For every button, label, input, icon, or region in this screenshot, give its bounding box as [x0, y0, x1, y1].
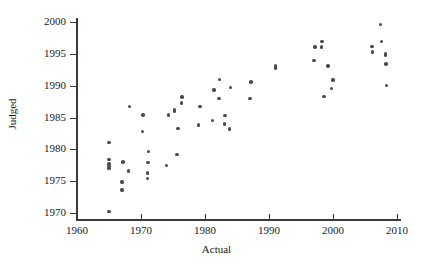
data-point — [165, 164, 168, 167]
data-point — [326, 64, 329, 67]
data-point — [228, 127, 231, 130]
data-point — [384, 52, 387, 55]
data-point — [212, 88, 215, 91]
data-point — [223, 114, 226, 117]
data-point — [248, 97, 251, 100]
x-axis-title: Actual — [0, 243, 433, 255]
data-point — [197, 123, 200, 126]
data-point — [211, 119, 214, 122]
data-point — [146, 161, 149, 164]
data-point — [147, 150, 150, 153]
data-point — [120, 188, 123, 191]
data-point — [312, 59, 315, 62]
data-point — [141, 130, 144, 133]
data-point — [379, 23, 382, 26]
data-point — [107, 210, 110, 213]
data-point — [274, 64, 277, 67]
data-point — [385, 84, 388, 87]
data-point — [370, 45, 373, 48]
data-point — [120, 180, 123, 183]
data-point — [371, 50, 374, 53]
data-point — [173, 108, 176, 111]
data-point — [107, 141, 110, 144]
data-point — [330, 87, 333, 90]
data-point — [218, 78, 221, 81]
data-point — [107, 158, 110, 161]
data-point — [176, 127, 179, 130]
data-point — [180, 95, 183, 98]
data-point — [384, 62, 387, 65]
data-point — [320, 40, 323, 43]
data-point — [121, 160, 124, 163]
data-point — [146, 177, 149, 180]
y-axis-title: Judged — [6, 84, 18, 144]
data-point — [380, 40, 383, 43]
data-point — [331, 78, 334, 81]
data-point — [128, 105, 131, 108]
data-point — [198, 105, 201, 108]
data-point — [180, 101, 183, 104]
data-point — [167, 113, 170, 116]
plot-data-area — [0, 0, 433, 265]
data-point — [127, 169, 130, 172]
data-point — [313, 45, 316, 48]
data-point — [320, 45, 323, 48]
data-point — [107, 162, 110, 165]
data-point — [175, 153, 178, 156]
data-point — [322, 95, 325, 98]
data-point — [146, 171, 149, 174]
data-point — [229, 86, 232, 89]
data-point — [141, 113, 144, 116]
data-point — [249, 80, 252, 83]
data-point — [217, 97, 220, 100]
scatter-plot-figure: 1970197519801985199019952000 19601970198… — [0, 0, 433, 265]
data-point — [223, 122, 226, 125]
